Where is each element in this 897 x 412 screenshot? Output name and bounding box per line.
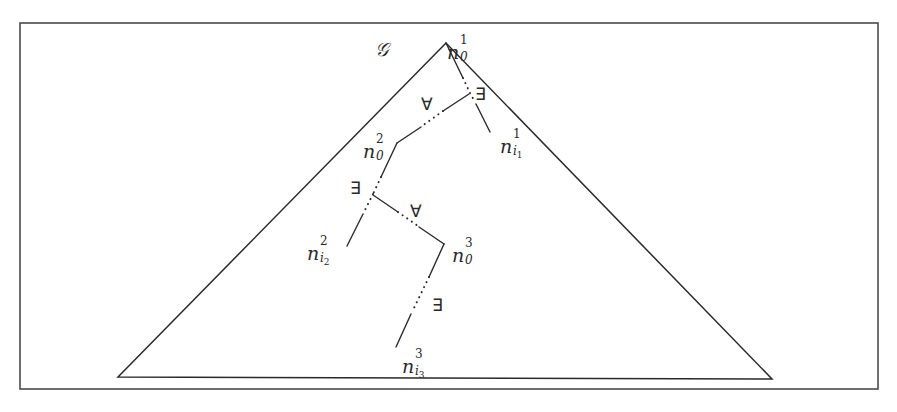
node-label-n0-3: n30 — [452, 246, 464, 265]
exists-symbol-2: ∃ — [350, 180, 361, 197]
graph-label: 𝒢 — [375, 38, 389, 61]
path-junction2-to-n03 — [373, 195, 444, 244]
figure-frame — [20, 23, 878, 389]
node-label-n0-2: n20 — [363, 142, 375, 161]
path-junction1-to-n02 — [397, 94, 469, 143]
exists-symbol-1: ∃ — [475, 86, 486, 103]
path-junction2-to-leaf2 — [347, 194, 373, 246]
exists-symbol-3: ∃ — [432, 297, 443, 314]
node-label-n0-1: n10 — [447, 43, 459, 62]
forall-symbol-1: ∀ — [421, 96, 433, 113]
graph-triangle — [118, 43, 772, 379]
node-label-ni3-3: n3i3 — [402, 357, 414, 376]
game-tree-diagram: 𝒢 n10 n1i1 n20 n2i2 n30 n3i3 ∃ ∀ ∃ ∀ ∃ — [0, 0, 897, 412]
forall-symbol-2: ∀ — [410, 203, 422, 220]
node-label-ni1-1: n1i1 — [500, 137, 512, 156]
node-label-ni2-2: n2i2 — [307, 244, 319, 263]
